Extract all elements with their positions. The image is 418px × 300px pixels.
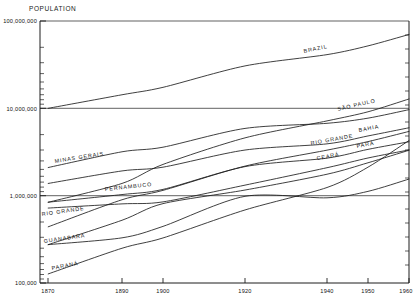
series-label-parana: PARANÁ [51, 260, 79, 271]
curve-parana [48, 141, 409, 274]
ytick-label-100k: 100,000 [15, 280, 37, 286]
xtick-label-1900: 1900 [156, 288, 169, 294]
curve-rio-grande [48, 131, 409, 226]
series-label-pernambuco: PERNAMBUCO [104, 181, 152, 192]
ytick-label-10m: 10,000,000 [7, 106, 38, 112]
curve-ceara [48, 150, 409, 208]
series-label-rio-grande: RIO GRANDE [310, 133, 354, 146]
curve-brazil [48, 34, 409, 108]
population-log-chart: 100,000,000 10,000,000 1,000,000 100,000… [0, 0, 418, 300]
series-label-brazil: BRAZIL [303, 43, 328, 54]
ytick-label-100m: 100,000,000 [3, 18, 37, 24]
series-label-minas-gerais: MINAS GERAIS [54, 150, 104, 164]
x-axis-ticks [48, 278, 409, 283]
xtick-label-1940: 1940 [320, 288, 333, 294]
series-label-ceara: CEARÁ [316, 151, 340, 161]
xtick-label-1920: 1920 [238, 288, 251, 294]
xtick-label-1960: 1960 [399, 288, 412, 294]
series-label-bahia: BAHIA [358, 123, 379, 133]
curve-guanabara [48, 150, 409, 244]
xtick-label-1890: 1890 [115, 288, 128, 294]
xtick-label-1870: 1870 [41, 288, 54, 294]
series-label-sao-paulo: SÃO PAULO [337, 97, 376, 112]
xtick-label-1950: 1950 [361, 288, 374, 294]
ytick-label-1m: 1,000,000 [10, 193, 37, 199]
chart-canvas: 100,000,000 10,000,000 1,000,000 100,000… [0, 0, 418, 300]
series-label-para: PARÁ [356, 140, 375, 149]
y-axis-title: POPULATION [29, 5, 76, 12]
